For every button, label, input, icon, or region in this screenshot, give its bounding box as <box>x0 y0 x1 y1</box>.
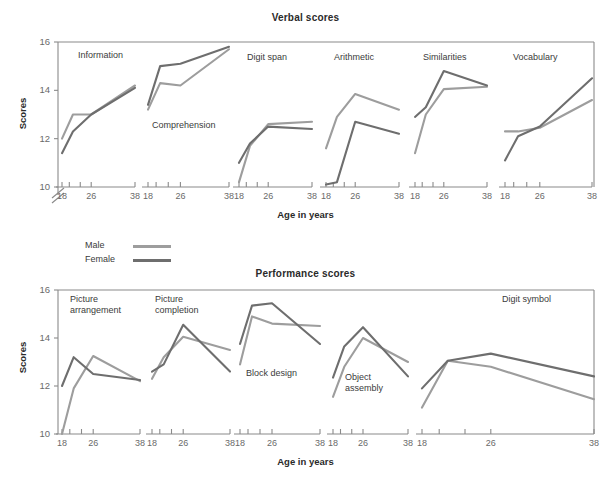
y-tick-label: 16 <box>34 284 50 295</box>
series-line-male <box>415 87 487 153</box>
series-line-female <box>239 127 312 163</box>
series-line-male <box>62 356 140 434</box>
panel-label: Arithmetic <box>334 52 374 63</box>
x-tick-label: 38 <box>585 438 603 448</box>
panel-label: Similarities <box>423 52 467 63</box>
panel-label: Information <box>78 50 123 61</box>
y-tick-label: 16 <box>34 36 50 47</box>
series-line-male <box>240 316 320 364</box>
series-line-female <box>422 354 594 389</box>
series-line-female <box>326 122 399 185</box>
x-tick-label: 38 <box>583 191 601 201</box>
x-axis-title: Age in years <box>0 456 611 467</box>
x-tick-label: 26 <box>346 191 364 201</box>
series-line-male <box>326 94 399 148</box>
verbal-scores-chart: Verbal scores Scores 10121416182638Infor… <box>0 0 611 250</box>
series-line-female <box>333 327 408 377</box>
panel-label: Picture arrangement <box>70 294 121 316</box>
y-tick-label: 10 <box>34 428 50 439</box>
legend-row-male: Male <box>85 240 255 252</box>
panel-label: Vocabulary <box>513 52 558 63</box>
x-tick-label: 26 <box>482 438 500 448</box>
x-tick-label: 18 <box>53 438 71 448</box>
x-tick-label: 26 <box>174 438 192 448</box>
x-tick-label: 18 <box>317 191 335 201</box>
x-tick-label: 26 <box>531 191 549 201</box>
x-tick-label: 18 <box>406 191 424 201</box>
series-line-female <box>505 78 592 160</box>
y-tick-label: 12 <box>34 133 50 144</box>
x-tick-label: 18 <box>230 191 248 201</box>
series-line-female <box>148 47 229 105</box>
performance-scores-chart: Performance scores Scores 10121416182638… <box>0 262 611 482</box>
series-line-female <box>62 357 140 386</box>
panel-label: Digit symbol <box>502 294 551 305</box>
x-tick-label: 26 <box>84 438 102 448</box>
x-tick-label: 18 <box>496 191 514 201</box>
x-tick-label: 26 <box>259 191 277 201</box>
panel-label: Comprehension <box>152 120 216 131</box>
y-tick-label: 14 <box>34 332 50 343</box>
panel-label: Block design <box>246 368 297 379</box>
x-tick-label: 26 <box>435 191 453 201</box>
x-tick-label: 18 <box>143 438 161 448</box>
legend-swatch-male <box>133 245 171 248</box>
panel-label: Object assembly <box>345 372 383 394</box>
y-tick-label: 10 <box>34 181 50 192</box>
x-tick-label: 26 <box>263 438 281 448</box>
legend-label-male: Male <box>85 240 105 250</box>
series-line-male <box>148 49 229 109</box>
series-line-male <box>505 100 592 131</box>
x-tick-label: 18 <box>413 438 431 448</box>
y-tick-label: 12 <box>34 380 50 391</box>
x-tick-label: 26 <box>82 191 100 201</box>
x-tick-label: 18 <box>231 438 249 448</box>
series-line-female <box>152 325 230 372</box>
x-axis-title: Age in years <box>0 209 611 220</box>
x-tick-label: 18 <box>53 191 71 201</box>
figure-root: Verbal scores Scores 10121416182638Infor… <box>0 0 611 482</box>
series-line-male <box>152 337 230 379</box>
series-line-female <box>415 71 487 117</box>
x-tick-label: 18 <box>139 191 157 201</box>
series-line-female <box>62 88 135 153</box>
series-line-male <box>422 361 594 408</box>
x-tick-label: 18 <box>324 438 342 448</box>
x-tick-label: 26 <box>171 191 189 201</box>
y-tick-label: 14 <box>34 84 50 95</box>
panel-label: Digit span <box>247 52 287 63</box>
panel-label: Picture completion <box>155 294 199 316</box>
x-tick-label: 26 <box>354 438 372 448</box>
series-line-male <box>239 122 312 182</box>
x-tick-label: 38 <box>478 191 496 201</box>
